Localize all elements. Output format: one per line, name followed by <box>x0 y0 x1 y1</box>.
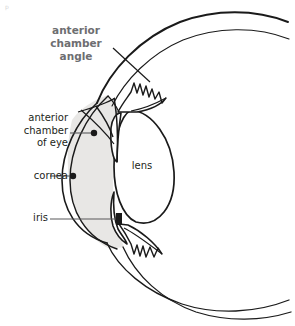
anterior-chamber-leader-dot <box>91 130 97 136</box>
label-lens: lens <box>122 160 162 173</box>
diagram-title-line-3: angle <box>60 50 93 62</box>
label-cornea: cornea <box>0 170 68 183</box>
diagram-title: anteriorchamberangle <box>30 24 122 63</box>
label-anterior-chamber-line-1: anterior <box>28 112 68 123</box>
ciliary-body-upper <box>118 83 166 112</box>
cornea-leader-dot <box>70 173 76 179</box>
iris-leader-marker <box>116 213 122 225</box>
sclera-inner-lower <box>123 247 291 319</box>
label-anterior-chamber-line-3: of eye <box>37 137 68 148</box>
label-anterior-chamber-of-eye: anteriorchamberof eye <box>0 112 68 150</box>
label-anterior-chamber-line-2: chamber <box>24 125 68 136</box>
diagram-title-line-1: anterior <box>52 24 100 36</box>
sclera-outer-upper <box>97 12 288 103</box>
diagram-title-line-2: chamber <box>50 37 102 49</box>
eye-anatomy-figure: p <box>0 0 295 326</box>
label-iris: iris <box>0 212 48 225</box>
